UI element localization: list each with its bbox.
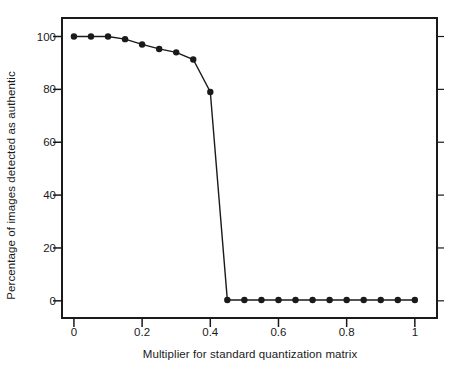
data-point [412, 297, 418, 303]
x-tick-label: 0.2 [122, 326, 162, 338]
x-tick-label: 0.4 [190, 326, 230, 338]
plot-canvas [0, 0, 454, 371]
data-point [224, 297, 230, 303]
y-tick-label: 40 [22, 189, 56, 201]
data-point [190, 56, 196, 62]
data-point [361, 297, 367, 303]
data-point [258, 297, 264, 303]
data-point [275, 297, 281, 303]
x-tick-label: 1 [395, 326, 435, 338]
data-point [395, 297, 401, 303]
x-tick-label: 0.6 [258, 326, 298, 338]
data-point [292, 297, 298, 303]
x-tick-label: 0.8 [327, 326, 367, 338]
data-point [71, 33, 77, 39]
x-axis-title: Multiplier for standard quantization mat… [62, 348, 438, 360]
y-tick-label: 100 [22, 31, 56, 43]
y-tick-label: 60 [22, 136, 56, 148]
chart-background [0, 0, 454, 371]
data-point [122, 36, 128, 42]
data-point [343, 297, 349, 303]
data-point [207, 89, 213, 95]
x-tick-label: 0 [54, 326, 94, 338]
y-tick-label: 0 [22, 295, 56, 307]
y-axis-tick-labels: 020406080100 [20, 0, 56, 371]
y-tick-label: 80 [22, 83, 56, 95]
y-axis-title: Percentage of images detected as authent… [0, 0, 22, 371]
data-point [105, 33, 111, 39]
data-point [326, 297, 332, 303]
data-point [378, 297, 384, 303]
data-point [309, 297, 315, 303]
data-point [88, 33, 94, 39]
y-tick-label: 20 [22, 242, 56, 254]
data-point [156, 46, 162, 52]
data-point [173, 49, 179, 55]
data-point [241, 297, 247, 303]
x-axis-tick-labels: 00.20.40.60.81 [0, 326, 454, 346]
data-point [139, 41, 145, 47]
chart-figure: Percentage of images detected as authent… [0, 0, 454, 371]
